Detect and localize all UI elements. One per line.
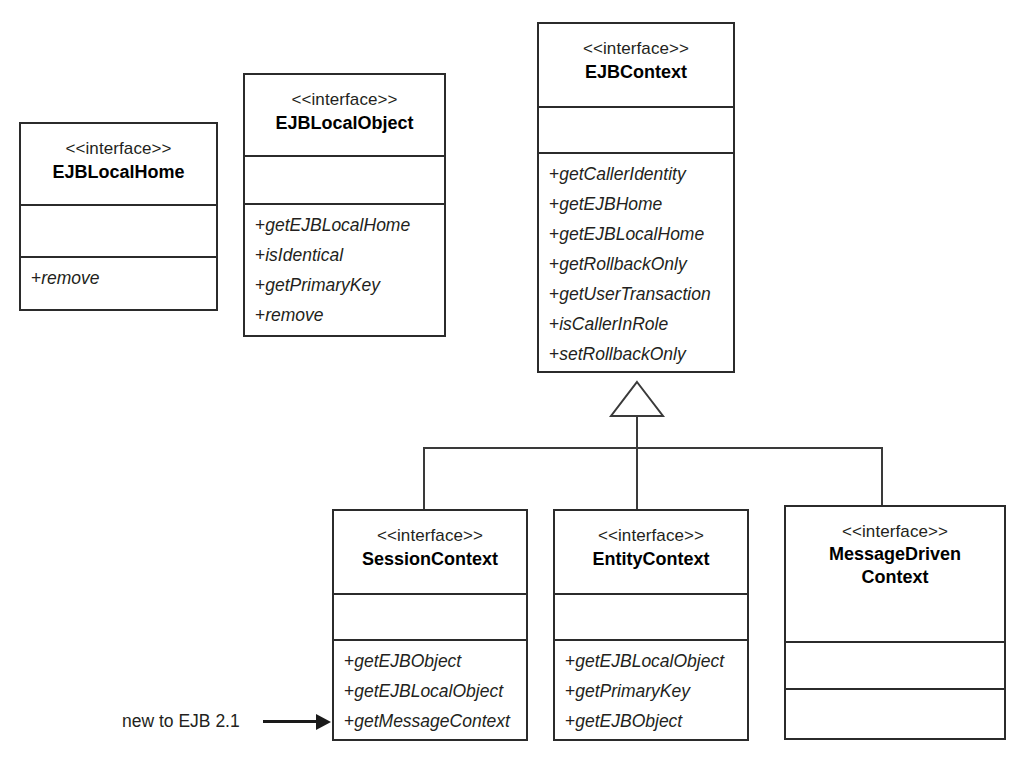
attributes-compartment bbox=[21, 206, 216, 256]
class-header-ejbcontext: <<interface>> EJBContext bbox=[539, 24, 733, 106]
operation-item: +remove bbox=[255, 300, 434, 330]
class-name: EJBContext bbox=[585, 60, 687, 84]
generalization-stem bbox=[636, 415, 638, 449]
operations-compartment: +getEJBLocalObject +getPrimaryKey +getEJ… bbox=[555, 641, 747, 739]
uml-class-sessioncontext[interactable]: <<interface>> SessionContext +getEJBObje… bbox=[332, 509, 528, 741]
operation-item: +isCallerInRole bbox=[549, 309, 723, 339]
operation-item: +getPrimaryKey bbox=[565, 676, 737, 706]
operation-item: +getEJBObject bbox=[565, 706, 737, 736]
class-header-sessioncontext: <<interface>> SessionContext bbox=[334, 511, 526, 593]
class-stereotype: <<interface>> bbox=[65, 137, 171, 160]
attributes-compartment bbox=[245, 157, 444, 203]
operations-compartment: +remove bbox=[21, 258, 216, 309]
class-stereotype: <<interface>> bbox=[598, 524, 704, 547]
generalization-leg-entitycontext bbox=[636, 447, 638, 510]
operation-item: +getEJBHome bbox=[549, 189, 723, 219]
class-stereotype: <<interface>> bbox=[583, 37, 689, 60]
attributes-compartment bbox=[539, 108, 733, 152]
operations-compartment: +getEJBLocalHome +isIdentical +getPrimar… bbox=[245, 205, 444, 335]
operation-item: +getEJBObject bbox=[344, 646, 516, 676]
operation-item: +getUserTransaction bbox=[549, 279, 723, 309]
uml-class-messagedrivencontext[interactable]: <<interface>> MessageDriven Context bbox=[784, 505, 1006, 740]
operations-compartment: +getCallerIdentity +getEJBHome +getEJBLo… bbox=[539, 154, 733, 371]
class-stereotype: <<interface>> bbox=[377, 524, 483, 547]
operation-item: +remove bbox=[31, 263, 206, 293]
class-header-entitycontext: <<interface>> EntityContext bbox=[555, 511, 747, 593]
generalization-leg-sessioncontext bbox=[423, 447, 425, 510]
operation-item: +getEJBLocalHome bbox=[255, 210, 434, 240]
class-name: SessionContext bbox=[362, 547, 498, 571]
operations-compartment: +getEJBObject +getEJBLocalObject +getMes… bbox=[334, 641, 526, 739]
class-header-messagedrivencontext: <<interface>> MessageDriven Context bbox=[786, 507, 1004, 641]
generalization-triangle-icon bbox=[608, 379, 666, 419]
class-stereotype: <<interface>> bbox=[842, 520, 948, 543]
operation-item: +getRollbackOnly bbox=[549, 249, 723, 279]
operation-item: +getEJBLocalObject bbox=[344, 676, 516, 706]
class-stereotype: <<interface>> bbox=[291, 88, 397, 111]
generalization-leg-messagedrivencontext bbox=[881, 447, 883, 506]
operation-item: +getEJBLocalObject bbox=[565, 646, 737, 676]
attributes-compartment bbox=[786, 643, 1004, 688]
operation-item: +setRollbackOnly bbox=[549, 339, 723, 369]
operation-item: +getEJBLocalHome bbox=[549, 219, 723, 249]
operation-item: +getPrimaryKey bbox=[255, 270, 434, 300]
class-name-continued: Context bbox=[862, 566, 929, 589]
uml-diagram-canvas: <<interface>> EJBLocalHome +remove <<int… bbox=[0, 0, 1025, 770]
attributes-compartment bbox=[555, 595, 747, 639]
class-name: EJBLocalHome bbox=[52, 160, 184, 184]
uml-class-ejblocalhome[interactable]: <<interface>> EJBLocalHome +remove bbox=[19, 122, 218, 311]
class-name: MessageDriven bbox=[829, 543, 961, 566]
operations-compartment bbox=[786, 690, 1004, 738]
class-name: EJBLocalObject bbox=[275, 111, 413, 135]
generalization-bus bbox=[424, 447, 883, 449]
annotation-new-to-ejb-21-label: new to EJB 2.1 bbox=[122, 710, 240, 732]
uml-class-ejbcontext[interactable]: <<interface>> EJBContext +getCallerIdent… bbox=[537, 22, 735, 373]
annotation-arrow-head-icon bbox=[316, 714, 331, 730]
uml-class-entitycontext[interactable]: <<interface>> EntityContext +getEJBLocal… bbox=[553, 509, 749, 741]
class-header-ejblocalhome: <<interface>> EJBLocalHome bbox=[21, 124, 216, 204]
operation-item: +isIdentical bbox=[255, 240, 434, 270]
attributes-compartment bbox=[334, 595, 526, 639]
operation-item: +getCallerIdentity bbox=[549, 159, 723, 189]
class-name: EntityContext bbox=[593, 547, 710, 571]
operation-item-getmessagecontext: +getMessageContext bbox=[344, 706, 516, 736]
class-header-ejblocalobject: <<interface>> EJBLocalObject bbox=[245, 75, 444, 155]
uml-class-ejblocalobject[interactable]: <<interface>> EJBLocalObject +getEJBLoca… bbox=[243, 73, 446, 337]
annotation-arrow-shaft bbox=[263, 720, 318, 723]
